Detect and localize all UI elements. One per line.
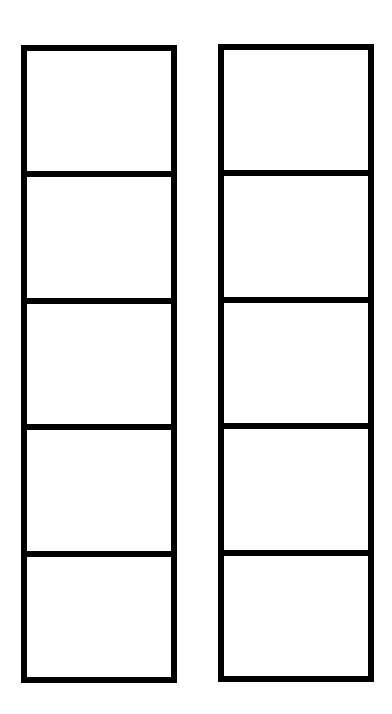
left-cell-1 [27,51,171,177]
right-cell-4 [224,429,368,555]
left-cell-3 [27,304,171,430]
left-column [21,45,177,683]
left-cell-5 [27,557,171,677]
right-column [218,44,374,682]
right-cell-5 [224,556,368,676]
left-cell-4 [27,430,171,556]
right-cell-3 [224,303,368,429]
left-cell-2 [27,177,171,303]
right-cell-1 [224,50,368,176]
right-cell-2 [224,176,368,302]
